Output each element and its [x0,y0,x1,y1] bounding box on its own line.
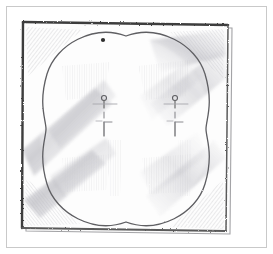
top-anchor-dot[interactable] [101,38,105,42]
sketch-canvas: Quatrefoil Sketch square paper sheet qua… [0,0,273,254]
sketch-illustration [0,0,273,254]
